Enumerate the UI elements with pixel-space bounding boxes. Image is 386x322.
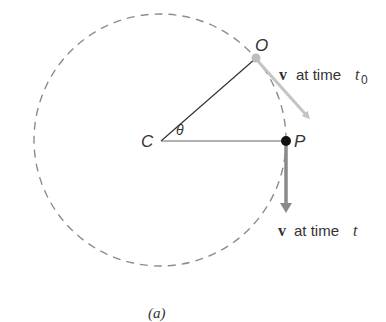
center-label: C <box>141 132 154 151</box>
figure-caption: (a) <box>148 305 166 322</box>
velocity-t-text: at time <box>294 222 339 239</box>
velocity-t0-subscript: 0 <box>361 73 368 87</box>
velocity-t0-time: t <box>355 66 360 83</box>
velocity-t-time: t <box>353 222 358 239</box>
velocity-t0-text: at time <box>296 66 341 83</box>
point-p-label: P <box>294 132 306 151</box>
velocity-t-label: v⃗ at time t <box>278 222 358 239</box>
point-p <box>281 136 291 146</box>
angle-label: θ <box>176 122 184 138</box>
circular-motion-diagram: C θ O P v⃗ at time t 0 v⃗ at time t (a) <box>0 0 386 322</box>
point-o-label: O <box>255 36 268 55</box>
velocity-t0-label: v⃗ at time t 0 <box>279 66 368 87</box>
circular-path <box>34 14 286 266</box>
